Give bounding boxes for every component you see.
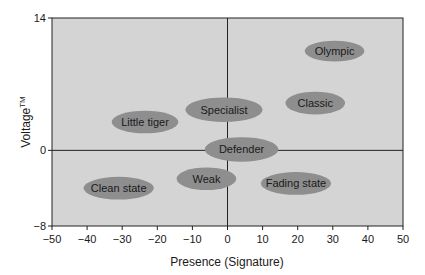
data-point-label: Classic (298, 97, 334, 109)
data-point: Specialist (185, 97, 262, 122)
data-point: Little tiger (112, 111, 179, 134)
data-point: Olympic (305, 41, 365, 62)
positioning-chart: OlympicClassicSpecialistLittle tigerDefe… (0, 0, 425, 275)
data-point-label: Little tiger (121, 116, 169, 128)
x-tick-label: 20 (292, 233, 304, 245)
data-point-label: Olympic (315, 45, 355, 57)
data-point: Fading state (261, 172, 331, 195)
x-tick-label: 0 (224, 233, 230, 245)
y-tick-label: −8 (33, 220, 46, 232)
data-point: Defender (205, 137, 279, 162)
x-tick-label: −30 (113, 233, 132, 245)
x-tick-label: −50 (43, 233, 62, 245)
y-tick-label: 14 (34, 12, 46, 24)
x-tick-label: 40 (362, 233, 374, 245)
data-point-label: Defender (219, 143, 265, 155)
data-point-label: Fading state (266, 177, 327, 189)
x-tick-label: 10 (256, 233, 268, 245)
data-point: Clean state (84, 177, 154, 200)
x-tick-label: −20 (148, 233, 167, 245)
data-point: Classic (285, 92, 345, 115)
data-point: Weak (177, 167, 237, 190)
x-tick-label: −40 (78, 233, 97, 245)
x-axis-ticks: −50−40−30−20−1001020304050 (43, 226, 409, 245)
y-tick-label: 0 (40, 144, 46, 156)
x-tick-label: −10 (183, 233, 202, 245)
data-point-label: Weak (192, 173, 220, 185)
x-tick-label: 50 (397, 233, 409, 245)
x-axis-label: Presence (Signature) (170, 255, 283, 269)
y-axis-label: VoltageTM (18, 96, 33, 148)
x-tick-label: 30 (327, 233, 339, 245)
data-point-label: Clean state (91, 182, 147, 194)
y-axis-ticks: −8014 (33, 12, 52, 232)
data-point-label: Specialist (200, 104, 247, 116)
